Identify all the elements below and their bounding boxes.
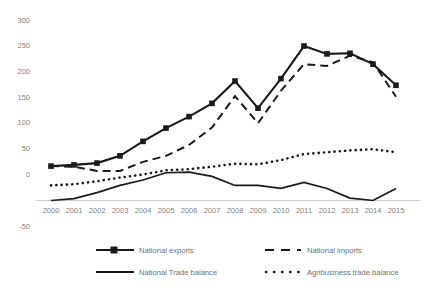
data-point-marker: [117, 153, 123, 159]
series-line-national-trade-balance: [51, 172, 396, 200]
legend-label: Agribusiness trade balance: [307, 268, 399, 277]
legend-item-agribusiness-trade-balance[interactable]: Agribusiness trade balance: [264, 265, 399, 279]
series-line-national-exports: [51, 46, 396, 166]
legend-label: National Trade balance: [139, 268, 217, 277]
data-point-marker: [71, 162, 77, 168]
data-point-marker: [255, 105, 261, 111]
legend-item-national-imports[interactable]: National imports: [264, 243, 362, 257]
legend-item-national-trade-balance[interactable]: National Trade balance: [96, 265, 217, 279]
chart-container: 300 250 200 150 100 50 0 -50 2000 2001 2…: [0, 0, 441, 292]
legend-swatch-dashed: [264, 244, 302, 256]
legend-label: National exports: [139, 246, 194, 255]
data-point-marker: [209, 101, 215, 107]
data-point-marker: [324, 51, 330, 57]
data-point-marker: [186, 114, 192, 120]
legend-label: National imports: [307, 246, 362, 255]
data-point-marker: [301, 43, 307, 49]
data-point-marker: [393, 82, 399, 88]
legend-item-national-exports[interactable]: National exports: [96, 243, 194, 257]
data-point-marker: [94, 160, 100, 166]
legend-swatch-solid-marker: [96, 244, 134, 256]
data-point-marker: [232, 78, 238, 84]
chart-legend: National exports National imports Nation…: [96, 243, 436, 287]
data-point-marker: [278, 76, 284, 82]
data-point-marker: [140, 139, 146, 145]
series-line-national-imports: [51, 56, 396, 171]
data-point-marker: [163, 125, 169, 131]
legend-swatch-solid-thin: [96, 266, 134, 278]
legend-swatch-dotted: [264, 266, 302, 278]
